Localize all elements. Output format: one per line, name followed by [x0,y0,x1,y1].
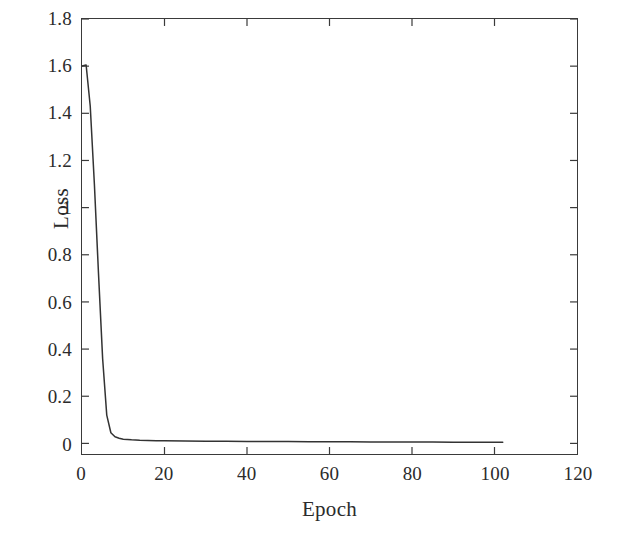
x-tick-label: 40 [237,464,256,483]
x-tick-label: 80 [403,464,422,483]
x-axis-tick-labels: 0 20 40 60 80 100 120 [0,464,627,490]
loss-line-series [82,19,577,454]
x-axis-label: Epoch [81,497,578,522]
x-tick-label: 20 [154,464,173,483]
y-axis-label: Loss [49,154,74,264]
y-tick-label: 0 [62,435,72,454]
x-tick-label: 120 [563,464,592,483]
y-tick-label: 0.4 [48,340,72,359]
loss-curve-figure: 1.8 1.6 1.4 1.2 1 0.8 0.6 0.4 0.2 0 0 20… [0,0,627,536]
plot-area [81,18,578,455]
y-axis-tick-labels: 1.8 1.6 1.4 1.2 1 0.8 0.6 0.4 0.2 0 [0,0,72,536]
loss-line-path [82,65,503,442]
x-tick-label: 60 [320,464,339,483]
y-tick-label: 1.8 [48,9,72,28]
x-tick-label: 0 [76,464,86,483]
y-tick-label: 1.6 [48,56,72,75]
y-tick-label: 0.6 [48,293,72,312]
y-tick-label: 0.2 [48,387,72,406]
x-tick-label: 100 [481,464,510,483]
y-tick-label: 1.4 [48,103,72,122]
